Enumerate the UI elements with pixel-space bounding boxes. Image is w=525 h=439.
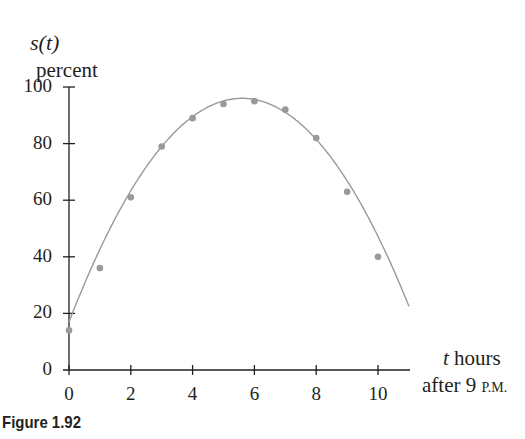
y-tick-label: 60 — [12, 188, 52, 210]
data-point — [313, 135, 320, 142]
x-tick-label: 10 — [363, 383, 393, 405]
data-point — [189, 115, 196, 122]
x-tick-label: 6 — [239, 383, 269, 405]
data-point — [66, 327, 73, 334]
data-point — [344, 188, 351, 195]
data-points — [66, 98, 382, 334]
axes — [63, 87, 410, 375]
x-units: hours — [449, 346, 501, 370]
data-point — [158, 143, 165, 150]
x-axis-label-line2: after 9 P.M. — [422, 375, 507, 396]
x-tick-label: 2 — [116, 383, 146, 405]
fitted-curve — [69, 98, 409, 322]
figure-caption: Figure 1.92 — [2, 413, 81, 433]
y-function-text: s(t) — [30, 30, 59, 55]
x-axis-label-line1: t hours — [443, 348, 501, 369]
data-point — [282, 106, 289, 113]
y-tick-label: 20 — [12, 301, 52, 323]
x-reference-pm: P.M. — [481, 380, 507, 395]
x-reference-text: after 9 — [422, 373, 481, 397]
data-point — [97, 265, 104, 272]
y-tick-label: 0 — [12, 358, 52, 380]
x-tick-label: 8 — [301, 383, 331, 405]
data-point — [251, 98, 258, 105]
y-tick-label: 40 — [12, 245, 52, 267]
x-tick-label: 4 — [178, 383, 208, 405]
data-point — [220, 101, 227, 108]
x-tick-label: 0 — [54, 383, 84, 405]
y-tick-label: 80 — [12, 132, 52, 154]
data-point — [128, 194, 135, 201]
data-point — [375, 253, 382, 260]
y-tick-label: 100 — [12, 75, 52, 97]
curve-path — [69, 98, 409, 322]
y-axis-function-label: s(t) — [30, 32, 59, 54]
